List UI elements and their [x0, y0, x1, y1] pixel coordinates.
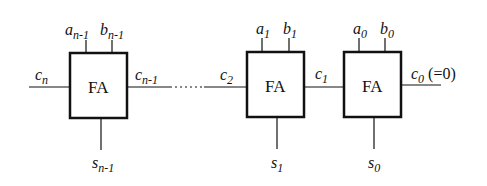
sum-s-n-1-label: sn-1 [92, 155, 114, 176]
carry-c2-label: c2 [220, 67, 233, 88]
input-b-n-1-label: bn-1 [100, 22, 124, 43]
input-b0-label: b0 [380, 21, 394, 42]
carry-c1-label: c1 [315, 66, 328, 87]
input-b1-label: b1 [283, 21, 297, 42]
carry-c0-label: c0 (=0) [411, 66, 456, 87]
fa-label: FA [362, 78, 382, 95]
fa-label: FA [265, 78, 285, 95]
input-a-n-1-label: an-1 [65, 22, 89, 43]
sum-s1-label: s1 [271, 155, 283, 176]
fa-label: FA [88, 79, 108, 96]
carry-cn-label: cn [35, 67, 48, 88]
input-a1-label: a1 [256, 21, 270, 42]
carry-cn-1-label: cn-1 [135, 67, 158, 88]
input-a0-label: a0 [353, 21, 367, 42]
sum-s0-label: s0 [368, 155, 380, 176]
